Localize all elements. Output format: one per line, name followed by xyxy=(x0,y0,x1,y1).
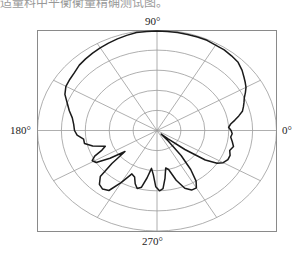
polar-grid xyxy=(38,30,277,231)
angle-label-0: 0° xyxy=(282,125,292,136)
angle-label-90: 90° xyxy=(145,16,160,27)
angle-label-270: 270° xyxy=(142,236,163,247)
polar-chart xyxy=(0,0,302,258)
pattern-curve xyxy=(65,31,246,191)
angle-label-180: 180° xyxy=(10,125,31,136)
